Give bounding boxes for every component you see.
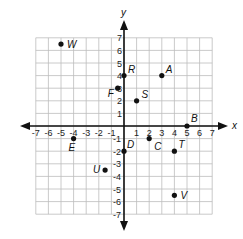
x-tick-label: -2 [95, 128, 103, 138]
y-tick-label: 5 [117, 59, 122, 69]
point-c-marker [147, 136, 152, 141]
y-tick-label: 6 [117, 46, 122, 56]
point-f-label: F [108, 88, 115, 99]
point-t-label: T [178, 139, 185, 150]
point-b-marker [184, 123, 189, 128]
x-tick-label: 7 [210, 128, 215, 138]
y-tick-label: -3 [113, 159, 121, 169]
x-tick-label: 6 [197, 128, 202, 138]
y-tick-label: 7 [117, 33, 122, 43]
y-tick-label: 2 [117, 96, 122, 106]
point-w-label: W [67, 39, 78, 50]
coordinate-plane: x y -7-6-5-4-3-2-112345677654321-1-2-3-4… [0, 0, 243, 239]
point-a-label: A [165, 64, 173, 75]
y-axis-down-arrow-icon [120, 221, 128, 231]
y-tick-label: -7 [113, 210, 121, 220]
x-axis-label: x [231, 120, 238, 131]
axes: x y [20, 7, 238, 231]
y-axis-up-arrow-icon [120, 20, 128, 30]
point-u-marker [103, 168, 108, 173]
point-u-label: U [93, 164, 101, 175]
x-tick-label: -7 [32, 128, 40, 138]
point-c-label: C [154, 141, 162, 152]
x-axis-right-arrow-icon [218, 122, 228, 130]
point-e-label: E [69, 142, 76, 153]
y-tick-label: -4 [113, 172, 121, 182]
point-d-label: D [127, 139, 134, 150]
y-tick-label: -1 [113, 134, 121, 144]
x-tick-label: 1 [134, 128, 139, 138]
point-e-marker [71, 136, 76, 141]
y-tick-label: -6 [113, 197, 121, 207]
point-r-marker [121, 73, 126, 78]
point-v-marker [172, 193, 177, 198]
x-tick-label: 4 [172, 128, 177, 138]
point-b-label: B [191, 113, 198, 124]
point-a-marker [159, 73, 164, 78]
y-tick-label: -5 [113, 185, 121, 195]
point-d-marker [121, 149, 126, 154]
point-t-marker [172, 149, 177, 154]
x-tick-label: 5 [185, 128, 190, 138]
y-axis-label: y [120, 7, 127, 18]
x-tick-label: -6 [44, 128, 52, 138]
x-tick-label: -5 [57, 128, 65, 138]
point-s-marker [134, 98, 139, 103]
point-w-marker [58, 42, 63, 47]
y-tick-label: -2 [113, 147, 121, 157]
point-s-label: S [142, 89, 149, 100]
x-tick-label: -3 [82, 128, 90, 138]
x-tick-label: 3 [159, 128, 164, 138]
x-axis-left-arrow-icon [20, 122, 30, 130]
point-f-marker [115, 86, 120, 91]
plotted-points: WARFSBECDTUV [58, 39, 198, 201]
y-tick-label: 1 [117, 109, 122, 119]
point-r-label: R [128, 64, 135, 75]
y-tick-label: 4 [117, 71, 122, 81]
